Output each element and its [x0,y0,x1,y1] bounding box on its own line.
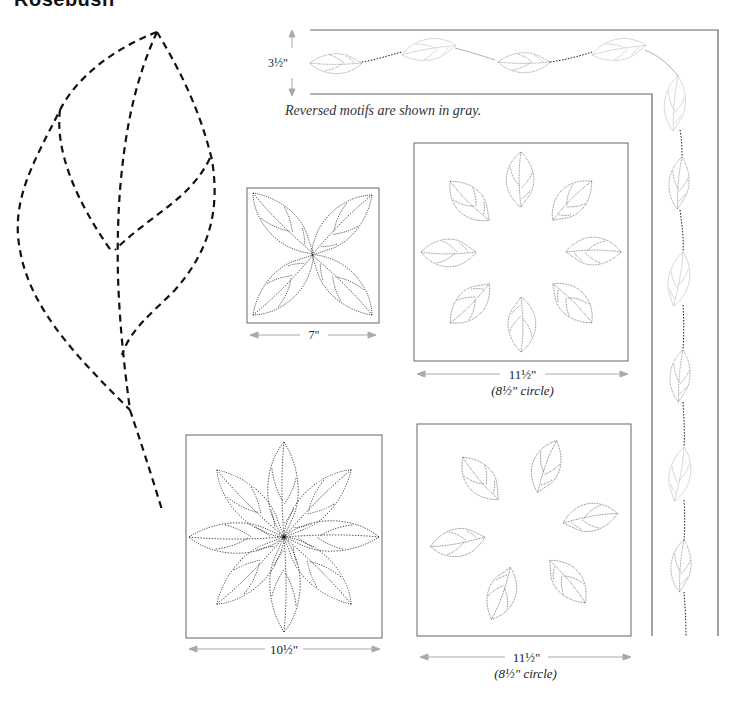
star-width-label: 10½" [265,642,303,658]
wreath-bottom-width-label: 11½" [505,650,548,666]
reversed-motifs-note: Reversed motifs are shown in gray. [285,103,481,119]
border-height-label: 3½" [268,56,304,71]
wreath-top-circle-label: (8½" circle) [480,383,565,399]
border-vine-right [664,130,695,636]
pinwheel-width-label: 7" [300,328,328,343]
pinwheel-block [242,183,384,327]
wreath-bottom-circle-label: (8½" circle) [483,666,568,682]
wreath-top-width-label: 11½" [500,367,545,383]
wreath-block-bottom [417,424,631,636]
star-block [186,435,382,638]
wreath-block-top [414,143,628,361]
full-size-leaf-motif [18,32,215,510]
